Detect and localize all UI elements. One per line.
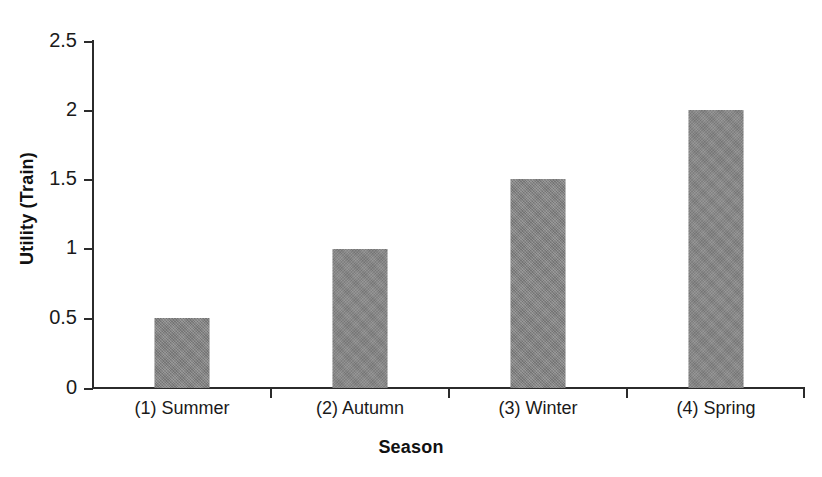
y-tick-label: 0 <box>13 377 77 397</box>
bar-spring[interactable] <box>689 110 744 388</box>
y-tick-mark <box>84 179 93 181</box>
bar-autumn[interactable] <box>333 249 388 388</box>
x-tick-label-spring: (4) Spring <box>627 397 805 419</box>
plot-area <box>93 40 805 388</box>
bar-summer[interactable] <box>155 318 210 388</box>
x-tick-label-summer: (1) Summer <box>93 397 271 419</box>
bar-slot <box>627 40 805 388</box>
bar-winter[interactable] <box>511 179 566 388</box>
y-tick-mark <box>84 41 93 43</box>
y-tick-mark <box>84 110 93 112</box>
bar-slot <box>93 40 271 388</box>
x-tick-label-autumn: (2) Autumn <box>271 397 449 419</box>
bar-chart-figure: 2.5 2 1.5 1 0.5 0 <box>0 0 822 477</box>
y-tick-label: 0.5 <box>13 307 77 327</box>
y-axis-title: Utility (Train) <box>17 114 38 304</box>
y-tick-label: 2.5 <box>13 30 77 50</box>
y-tick-mark <box>84 248 93 250</box>
x-tick-label-winter: (3) Winter <box>449 397 627 419</box>
x-axis-title: Season <box>0 437 822 458</box>
y-tick-mark <box>84 318 93 320</box>
bar-slot <box>271 40 449 388</box>
bar-slot <box>449 40 627 388</box>
